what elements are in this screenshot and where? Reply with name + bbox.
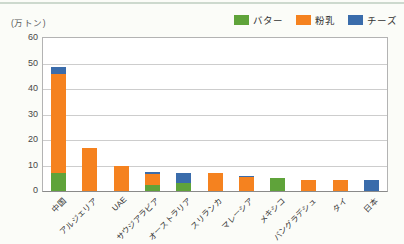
- bar-segment-タイ-粉乳: [333, 180, 348, 191]
- legend-item-0: バター: [234, 13, 283, 27]
- gridline-50: [43, 64, 387, 65]
- bar-segment-マレーシア-粉乳: [239, 177, 254, 191]
- y-tick-0: 0: [8, 185, 38, 195]
- bar-segment-バングラデシュ-粉乳: [301, 180, 316, 191]
- bar-segment-UAE-粉乳: [114, 166, 129, 192]
- bar-segment-中国-バター: [51, 173, 66, 191]
- bar-segment-オーストラリア-バター: [176, 183, 191, 191]
- bar-segment-中国-チーズ: [51, 67, 66, 73]
- legend-label: 粉乳: [315, 13, 335, 27]
- scan-top-rule: [0, 2, 404, 4]
- legend-item-2: チーズ: [348, 13, 397, 27]
- gridline-20: [43, 140, 387, 141]
- bar-segment-アルジェリア-粉乳: [82, 148, 97, 191]
- y-tick-30: 30: [8, 109, 38, 119]
- bar-segment-メキシコ-バター: [270, 178, 285, 191]
- bar-segment-サウジアラビア-バター: [145, 185, 160, 191]
- y-tick-60: 60: [8, 32, 38, 42]
- bar-segment-マレーシア-チーズ: [239, 176, 254, 177]
- gridline-40: [43, 89, 387, 90]
- bar-segment-日本-チーズ: [364, 180, 379, 191]
- bar-segment-スリランカ-粉乳: [208, 173, 223, 191]
- bar-segment-中国-粉乳: [51, 74, 66, 173]
- legend-swatch-icon: [348, 15, 363, 25]
- bar-segment-オーストラリア-チーズ: [176, 173, 191, 183]
- legend-label: チーズ: [367, 13, 397, 27]
- bar-segment-サウジアラビア-チーズ: [145, 172, 160, 175]
- legend: バター粉乳チーズ: [234, 13, 397, 27]
- y-tick-10: 10: [8, 160, 38, 170]
- y-tick-50: 50: [8, 58, 38, 68]
- bar-segment-サウジアラビア-粉乳: [145, 174, 160, 184]
- y-tick-40: 40: [8, 83, 38, 93]
- y-tick-20: 20: [8, 134, 38, 144]
- legend-label: バター: [253, 13, 283, 27]
- legend-swatch-icon: [234, 15, 249, 25]
- plot-area: [42, 37, 388, 192]
- y-axis-unit-label: (万トン): [11, 16, 46, 28]
- gridline-30: [43, 115, 387, 116]
- legend-swatch-icon: [296, 15, 311, 25]
- legend-item-1: 粉乳: [296, 13, 335, 27]
